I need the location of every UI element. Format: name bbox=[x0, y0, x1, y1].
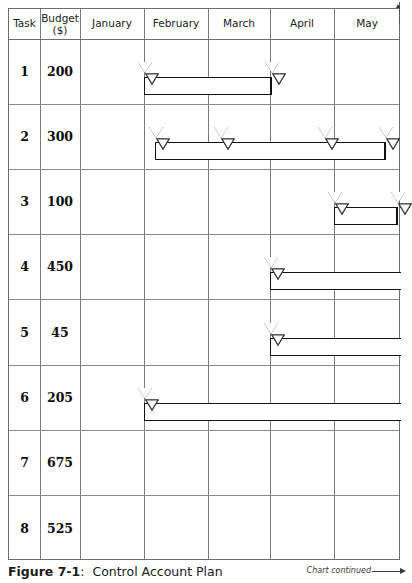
milestone-marker-icon[interactable] bbox=[265, 62, 279, 73]
column-header-march: March bbox=[208, 9, 270, 39]
figure-number: Figure 7-1 bbox=[8, 564, 80, 579]
milestone-marker-icon[interactable] bbox=[328, 192, 342, 203]
column-header-january-label: January bbox=[92, 18, 132, 30]
table-row: 5 bbox=[9, 299, 40, 365]
budget-value-cell: 200 bbox=[40, 39, 80, 104]
table-row: 8 bbox=[9, 495, 40, 561]
column-header-task: Task bbox=[9, 9, 40, 39]
column-header-april: April bbox=[270, 9, 334, 39]
budget-value: 675 bbox=[47, 455, 73, 470]
milestone-marker-icon[interactable] bbox=[214, 127, 228, 138]
gantt-table: Task Budget ($) January February March A… bbox=[8, 8, 400, 560]
table-row: 1 bbox=[9, 39, 40, 104]
task-number: 2 bbox=[20, 129, 29, 144]
budget-value: 450 bbox=[47, 259, 73, 274]
table-row: 7 bbox=[9, 430, 40, 495]
figure-caption-separator: : bbox=[80, 564, 84, 579]
column-header-may: May bbox=[334, 9, 400, 39]
column-header-february-label: February bbox=[153, 18, 200, 30]
column-header-april-label: April bbox=[290, 18, 314, 30]
column-header-january: January bbox=[80, 9, 144, 39]
milestone-marker-icon[interactable] bbox=[138, 388, 152, 399]
column-header-task-label: Task bbox=[13, 18, 36, 30]
budget-value: 45 bbox=[51, 325, 68, 340]
budget-value-cell: 45 bbox=[40, 299, 80, 365]
budget-value: 200 bbox=[47, 64, 73, 79]
arrow-right-icon bbox=[372, 567, 406, 575]
budget-value: 525 bbox=[47, 521, 73, 536]
column-header-february: February bbox=[144, 9, 208, 39]
milestone-marker-icon[interactable] bbox=[138, 62, 152, 73]
budget-value: 100 bbox=[47, 194, 73, 209]
milestone-marker-icon[interactable] bbox=[264, 323, 278, 334]
gantt-bar-task-1[interactable] bbox=[144, 77, 272, 95]
gantt-bar-task-6[interactable] bbox=[144, 403, 401, 421]
column-header-budget-unit: ($) bbox=[53, 24, 68, 36]
budget-value: 300 bbox=[47, 129, 73, 144]
milestone-marker-icon[interactable] bbox=[379, 127, 393, 138]
task-number: 3 bbox=[20, 194, 29, 209]
gantt-bar-task-4[interactable] bbox=[270, 272, 401, 290]
task-number: 7 bbox=[20, 455, 29, 470]
table-row: 2 bbox=[9, 104, 40, 169]
milestone-marker-icon[interactable] bbox=[264, 257, 278, 268]
task-number: 8 bbox=[20, 521, 29, 536]
table-row: 3 bbox=[9, 169, 40, 234]
gantt-bar-task-5[interactable] bbox=[270, 338, 401, 356]
milestone-marker-icon[interactable] bbox=[391, 192, 405, 203]
task-number: 1 bbox=[20, 64, 29, 79]
table-row: 6 bbox=[9, 365, 40, 430]
budget-value-cell: 205 bbox=[40, 365, 80, 430]
column-divider-budget-january bbox=[80, 9, 81, 559]
chart-continuation-arrow-icon: ▴ bbox=[396, 1, 400, 10]
gantt-bar-task-2[interactable] bbox=[155, 142, 386, 160]
task-number: 4 bbox=[20, 259, 29, 274]
column-header-budget: Budget ($) bbox=[40, 9, 80, 39]
milestone-marker-icon[interactable] bbox=[149, 127, 163, 138]
task-number: 6 bbox=[20, 390, 29, 405]
budget-value-cell: 525 bbox=[40, 495, 80, 561]
milestone-marker-icon[interactable] bbox=[318, 127, 332, 138]
chart-continued-note: Chart continued bbox=[307, 566, 406, 575]
budget-value-cell: 100 bbox=[40, 169, 80, 234]
column-header-may-label: May bbox=[356, 18, 378, 30]
budget-value: 205 bbox=[47, 390, 73, 405]
chart-continued-label: Chart continued bbox=[307, 566, 371, 575]
column-header-march-label: March bbox=[223, 18, 255, 30]
task-number: 5 bbox=[20, 325, 29, 340]
column-header-budget-label: Budget bbox=[41, 12, 79, 24]
budget-value-cell: 300 bbox=[40, 104, 80, 169]
table-row: 4 bbox=[9, 234, 40, 299]
budget-value-cell: 450 bbox=[40, 234, 80, 299]
budget-value-cell: 675 bbox=[40, 430, 80, 495]
figure-title: Control Account Plan bbox=[92, 564, 222, 579]
